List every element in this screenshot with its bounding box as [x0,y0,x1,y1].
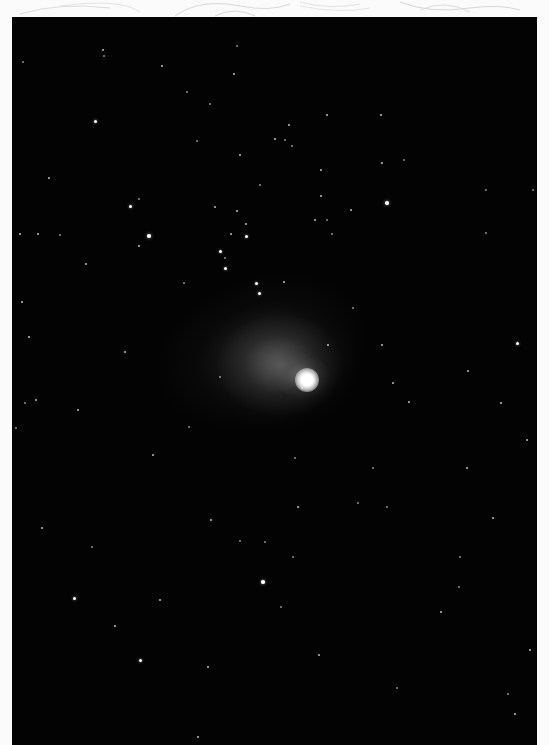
star [380,114,382,116]
star [35,399,37,401]
star [258,292,261,295]
star [224,257,226,259]
star [183,282,185,284]
star [28,336,31,339]
star [196,140,198,142]
star [152,454,155,457]
star [516,342,519,345]
star [458,586,460,588]
star [392,382,395,385]
star [264,541,266,543]
star [396,687,398,689]
star [85,263,87,265]
star [236,45,238,47]
star [326,114,328,116]
star [59,234,61,236]
star [492,517,494,519]
star [147,234,151,238]
star [209,103,211,105]
star [219,376,221,378]
star [91,546,93,548]
star [372,467,374,469]
star [485,189,487,191]
star [129,205,132,208]
star [326,219,328,221]
star [77,409,80,412]
star [255,282,258,285]
star [385,201,389,205]
star [284,139,286,141]
star [381,162,383,164]
star [102,49,104,51]
star [467,370,469,372]
star [15,427,17,429]
star [440,611,443,614]
star [73,597,76,600]
star [24,402,26,404]
star [297,506,299,508]
star [381,344,384,347]
star [138,245,140,247]
star [230,233,232,235]
star [331,233,333,235]
star [41,527,43,529]
star [292,556,294,558]
star [259,184,261,186]
star [500,402,502,404]
star [514,713,517,716]
star [21,301,23,303]
star [403,159,405,161]
star [357,502,359,504]
star [280,606,282,608]
star [239,540,241,542]
star [386,506,388,508]
star [294,457,296,459]
star [507,693,509,695]
star [245,223,247,225]
star [318,654,321,657]
star [124,351,127,354]
star [327,344,329,346]
star [314,219,316,221]
star [48,177,50,179]
star [188,426,190,428]
star [261,580,265,584]
star [224,267,227,270]
star [214,206,216,208]
star [22,61,24,63]
star [19,233,21,235]
star [352,307,354,309]
star [274,138,276,140]
star [233,73,235,75]
star [207,666,209,668]
star [239,154,242,157]
star [350,209,352,211]
star [138,198,140,200]
star [219,250,222,253]
star [94,120,97,123]
star [37,233,39,235]
star [103,55,105,57]
star [526,439,529,442]
star [161,65,163,67]
star [532,189,534,191]
star [197,736,200,739]
star [288,124,290,126]
star [485,232,487,234]
star [114,625,116,627]
star [186,91,188,93]
star [408,401,411,404]
star [236,210,238,212]
sketch-lines-decoration [0,0,549,18]
star [139,659,142,662]
comet-nucleus [295,368,319,392]
star [291,145,293,147]
star [301,387,303,389]
star [459,556,461,558]
star [466,467,469,470]
night-sky-photo [12,17,537,745]
star [210,519,212,521]
star [529,649,531,651]
star [320,169,322,171]
star [159,599,161,601]
